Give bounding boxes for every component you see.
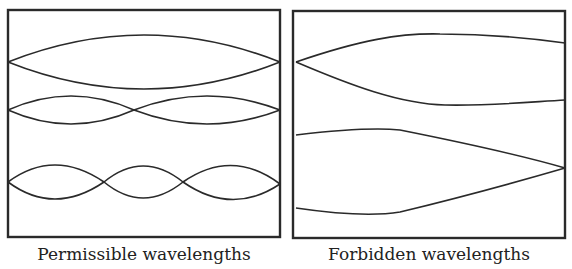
forbidden-wave-a xyxy=(296,34,565,105)
permissible-wave-n2 xyxy=(8,96,280,124)
forbidden-panel-frame xyxy=(293,11,565,238)
permissible-wave-n1 xyxy=(8,35,280,89)
forbidden-wavelengths-caption: Forbidden wavelengths xyxy=(293,244,565,264)
permissible-panel-frame xyxy=(8,10,280,237)
standing-wave-diagram xyxy=(0,0,572,269)
permissible-wave-n3 xyxy=(8,165,280,200)
permissible-wavelengths-caption: Permissible wavelengths xyxy=(8,244,280,264)
forbidden-wave-b xyxy=(296,129,565,214)
